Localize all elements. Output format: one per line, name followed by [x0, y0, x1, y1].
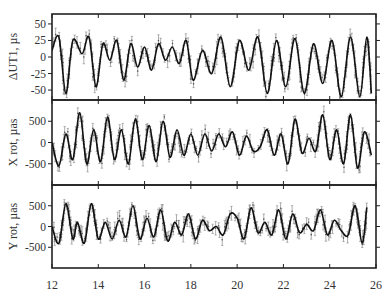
stacked-time-series-plot: 50250-25-505000-5005000-5001214161820222…: [0, 0, 386, 301]
x-tick-label: 24: [324, 278, 336, 292]
y-tick-label: -50: [31, 84, 47, 96]
x-tick-label: 26: [370, 278, 382, 292]
y-tick-label: 25: [35, 34, 47, 46]
y-tick-label: 0: [40, 51, 46, 63]
y-tick-label: 0: [40, 137, 46, 149]
y-tick-label: -500: [25, 158, 46, 170]
x-tick-label: 18: [185, 278, 197, 292]
panel-middle: 5000-500: [25, 100, 380, 185]
panel-top: 50250-25-50: [31, 14, 380, 104]
y-axis-label-top: ΔUT1, µs: [6, 22, 21, 92]
observation-points: [50, 28, 372, 104]
model-curve: [52, 204, 367, 244]
model-curve: [52, 113, 371, 168]
y-axis-label-bottom: Y rot, µas: [6, 192, 21, 262]
panel-bottom: 5000-500: [25, 185, 380, 268]
x-tick-label: 22: [277, 278, 289, 292]
y-tick-label: -25: [31, 68, 47, 80]
x-tick-label: 20: [231, 278, 243, 292]
observation-points: [51, 200, 368, 248]
x-tick-label: 14: [92, 278, 104, 292]
y-axis-label-middle: X rot, µas: [6, 108, 21, 178]
x-tick-label: 16: [139, 278, 151, 292]
y-tick-label: 0: [40, 221, 46, 233]
y-tick-label: 500: [29, 115, 47, 127]
chart-figure: 50250-25-505000-5005000-5001214161820222…: [0, 0, 386, 301]
x-tick-label: 12: [46, 278, 58, 292]
y-tick-label: 50: [35, 18, 47, 30]
model-curve: [52, 35, 371, 96]
y-tick-label: 500: [29, 200, 47, 212]
y-tick-label: -500: [25, 241, 46, 253]
